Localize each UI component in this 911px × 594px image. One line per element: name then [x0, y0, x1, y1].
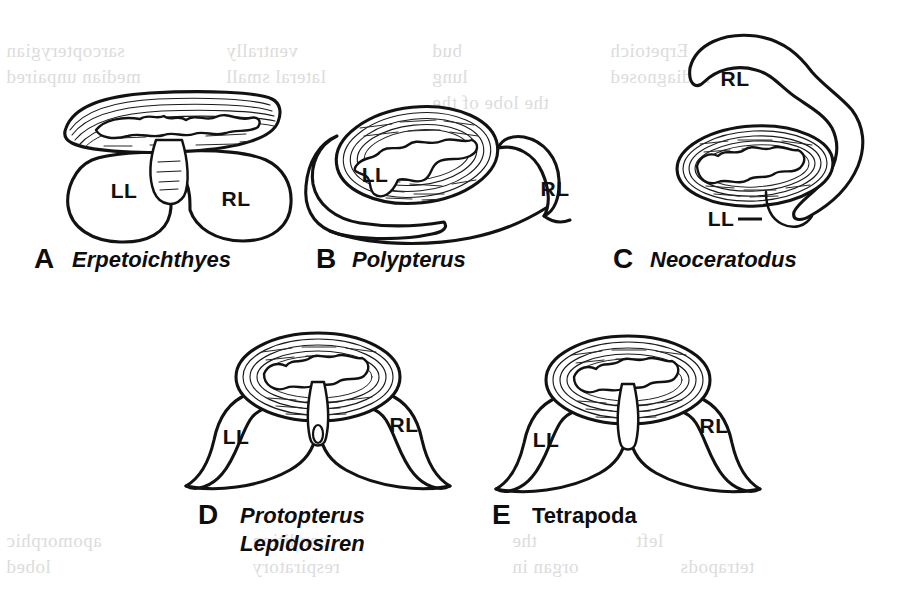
panel-b-name: Polypterus — [352, 247, 466, 272]
panel-c-label-rl: RL — [721, 67, 750, 90]
panel-a-label-ll: LL — [111, 179, 137, 202]
panel-c-label-ll: LL — [708, 207, 734, 230]
panel-b-right-lobe-lower — [544, 216, 570, 222]
panel-e-letter: E — [492, 499, 511, 530]
panel-d-letter: D — [198, 499, 218, 530]
panel-d-name-line1: Protopterus — [240, 503, 365, 528]
panel-e-label-rl: RL — [700, 414, 729, 437]
panel-c-caption: C Neoceratodus — [613, 243, 797, 274]
panel-a-caption: A Erpetoichthyes — [34, 243, 231, 274]
panel-c-name: Neoceratodus — [650, 247, 797, 272]
panel-d-stalk — [308, 382, 328, 446]
panel-b-caption: B Polypterus — [316, 243, 466, 274]
panel-b-letter: B — [316, 243, 336, 274]
panel-a-label-rl: RL — [222, 187, 251, 210]
panel-a-name: Erpetoichthyes — [72, 247, 231, 272]
panel-d-drawing: LL RL — [186, 333, 450, 489]
panel-d-name-line2: Lepidosiren — [240, 531, 365, 556]
panel-e-label-ll: LL — [533, 428, 559, 451]
panel-b-label-ll: LL — [362, 163, 388, 186]
panel-d-caption: D Protopterus Lepidosiren — [198, 499, 365, 556]
panel-e-stalk — [618, 384, 638, 450]
panel-e-name: Tetrapoda — [532, 503, 637, 528]
panel-e-drawing: LL RL — [496, 336, 760, 492]
panel-a-drawing: LL RL — [65, 92, 291, 242]
panel-a-letter: A — [34, 243, 54, 274]
panel-d-label-rl: RL — [390, 413, 419, 436]
panel-b-label-rl: RL — [541, 177, 570, 200]
panel-c-letter: C — [613, 243, 633, 274]
panel-d-label-ll: LL — [223, 425, 249, 448]
comparative-lung-diagram: LL RL A Erpetoichthyes — [0, 0, 911, 594]
panel-b-drawing: LL RL — [306, 99, 570, 244]
panel-e-caption: E Tetrapoda — [492, 499, 637, 530]
figure-root: sarcopterygianventrallybudErpetoichmedia… — [0, 0, 911, 594]
panel-c-drawing: RL LL — [675, 35, 863, 230]
